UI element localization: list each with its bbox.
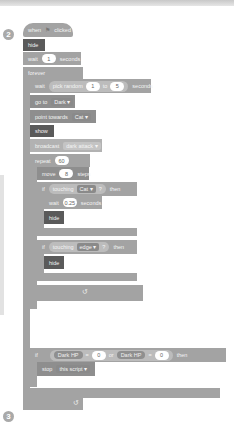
dark-hp-variable[interactable]: Dark HP <box>117 351 146 359</box>
wait-block-2[interactable]: wait 0.25 seconds <box>44 196 102 209</box>
question-mark: ? <box>102 244 105 250</box>
or-label: or <box>109 352 114 358</box>
wait-unit: seconds <box>60 56 81 62</box>
forever-block[interactable]: forever <box>23 67 83 79</box>
move-label: move <box>42 171 55 177</box>
hide-label: hide <box>49 260 59 266</box>
if-label: if <box>42 186 45 192</box>
then-label: then <box>177 352 188 358</box>
repeat-count-input[interactable]: 60 <box>55 156 69 165</box>
go-to-block[interactable]: go to Dark ▾ <box>30 95 75 108</box>
stop-label: stop <box>42 366 52 372</box>
stop-dropdown[interactable]: this script ▾ <box>56 365 90 373</box>
forever-footer: ↺ <box>23 398 83 410</box>
show-block[interactable]: show <box>30 125 54 137</box>
hide-label: hide <box>49 215 59 221</box>
broadcast-label: broadcast <box>35 143 59 149</box>
to-label: to <box>103 83 108 89</box>
if-label: if <box>35 352 38 358</box>
wait-label: wait <box>28 56 38 62</box>
wait-seconds-input[interactable]: 0.25 <box>63 198 77 207</box>
touching-dropdown[interactable]: edge ▾ <box>77 243 100 251</box>
hide-block[interactable]: hide <box>23 39 45 51</box>
left-panel-edge <box>0 175 4 315</box>
repeat-footer: ↺ <box>30 285 143 301</box>
dark-hp-variable[interactable]: Dark HP <box>54 351 83 359</box>
if-label: if <box>42 244 45 250</box>
wait-block[interactable]: wait 1 seconds <box>23 52 81 65</box>
hide-label: hide <box>28 42 38 48</box>
touching-condition[interactable]: touching edge ▾ ? <box>49 242 110 252</box>
point-towards-dropdown[interactable]: Cat ▾ <box>72 113 91 121</box>
forever-label: forever <box>28 70 45 76</box>
wait-unit: seconds <box>81 200 102 206</box>
touching-label: touching <box>53 244 74 250</box>
wait-random-block[interactable]: wait pick random 1 to 5 seconds <box>30 79 151 93</box>
wait-label: wait <box>35 83 45 89</box>
show-label: show <box>35 128 48 134</box>
go-to-dropdown[interactable]: Dark ▾ <box>51 98 73 106</box>
pick-random-label: pick random <box>53 83 83 89</box>
then-label: then <box>113 244 124 250</box>
touching-label: touching <box>53 186 74 192</box>
random-to-input[interactable]: 5 <box>110 82 124 91</box>
broadcast-dropdown[interactable]: dark attack ▾ <box>63 142 100 150</box>
hp-value-input[interactable]: 0 <box>155 351 169 360</box>
move-steps-input[interactable]: 8 <box>59 169 73 178</box>
point-towards-label: point towards <box>35 114 68 120</box>
equals-op: = <box>148 352 151 358</box>
when-flag-clicked-block[interactable]: when ⚑ clicked <box>23 23 73 37</box>
top-border <box>0 0 234 6</box>
question-mark: ? <box>99 186 102 192</box>
if-touching-cat-block[interactable]: if touching Cat ▾ ? then <box>37 182 137 196</box>
repeat-label: repeat <box>35 158 51 164</box>
touching-dropdown[interactable]: Cat ▾ <box>77 185 96 193</box>
if3-arm <box>30 362 37 387</box>
broadcast-block[interactable]: broadcast dark attack ▾ <box>30 139 102 152</box>
wait-unit: seconds <box>132 83 153 89</box>
point-towards-block[interactable]: point towards Cat ▾ <box>30 110 96 123</box>
then-label: then <box>110 186 121 192</box>
step-marker-2: 2 <box>3 29 14 40</box>
step-marker-3: 3 <box>3 411 14 422</box>
wait-seconds-input[interactable]: 1 <box>42 54 56 63</box>
move-unit: steps <box>77 171 90 177</box>
hat-label: when <box>28 27 41 33</box>
touching-condition[interactable]: touching Cat ▾ ? <box>49 184 106 194</box>
if-touching-edge-block[interactable]: if touching edge ▾ ? then <box>37 240 137 254</box>
if2-footer <box>37 273 137 281</box>
wait-label: wait <box>49 200 59 206</box>
pick-random-reporter[interactable]: pick random 1 to 5 <box>49 81 129 92</box>
hp-value-input[interactable]: 0 <box>92 351 106 360</box>
repeat-block[interactable]: repeat 60 <box>30 154 90 167</box>
hide-block-3[interactable]: hide <box>44 256 64 269</box>
green-flag-icon: ⚑ <box>45 27 50 33</box>
equals-op: = <box>86 352 89 358</box>
if-hp-block[interactable]: if Dark HP = 0 or Dark HP = 0 then <box>30 348 226 362</box>
if1-footer <box>37 228 137 236</box>
repeat-arrow-icon: ↺ <box>82 288 88 296</box>
hide-block-2[interactable]: hide <box>44 211 64 224</box>
forever-arrow-icon: ↺ <box>73 399 79 407</box>
hat-label-after: clicked <box>54 27 71 33</box>
or-condition[interactable]: Dark HP = 0 or Dark HP = 0 <box>50 350 173 361</box>
move-block[interactable]: move 8 steps <box>37 167 89 180</box>
stop-block[interactable]: stop this script ▾ <box>37 362 95 376</box>
forever-arm <box>23 79 30 409</box>
random-from-input[interactable]: 1 <box>86 82 100 91</box>
if3-footer <box>30 388 220 398</box>
go-to-label: go to <box>35 99 47 105</box>
